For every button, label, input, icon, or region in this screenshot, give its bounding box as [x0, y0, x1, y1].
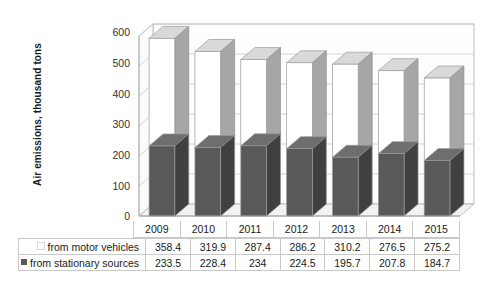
y-tick-100: 100	[96, 181, 130, 191]
table-row: from stationary sources233.5228.4234224.…	[19, 255, 460, 271]
category-axis-labels: 2009201020112012201320142015	[133, 221, 460, 238]
plot-area	[133, 20, 478, 220]
table-row: from motor vehicles358.4319.9287.4286.23…	[19, 239, 460, 255]
segment-stationary-2011	[241, 134, 281, 216]
category-label-2014: 2014	[366, 221, 413, 238]
table-cell: 310.2	[325, 239, 370, 255]
data-table: from motor vehicles358.4319.9287.4286.23…	[18, 238, 460, 271]
category-label-2011: 2011	[226, 221, 273, 238]
table-cell: 228.4	[190, 255, 235, 271]
series-name: from motor vehicles	[48, 241, 140, 253]
y-axis-title: Air emissions, thousand tons	[32, 20, 43, 210]
table-cell: 287.4	[235, 239, 280, 255]
data-table-body: from motor vehicles358.4319.9287.4286.23…	[19, 239, 460, 271]
table-cell: 276.5	[370, 239, 415, 255]
y-tick-200: 200	[96, 150, 130, 160]
table-cell: 319.9	[190, 239, 235, 255]
segment-stationary-2014	[378, 142, 418, 216]
series-legend-label: from motor vehicles	[19, 239, 146, 255]
column-2013	[333, 52, 373, 216]
table-cell: 234	[235, 255, 280, 271]
table-cell: 286.2	[280, 239, 325, 255]
column-2015	[424, 66, 464, 216]
category-label-2013: 2013	[319, 221, 366, 238]
segment-motor-vehicles-2013	[333, 52, 373, 157]
y-tick-400: 400	[96, 89, 130, 99]
category-label-2009: 2009	[133, 221, 180, 238]
segment-stationary-2012	[287, 137, 327, 216]
segment-motor-vehicles-2010	[195, 40, 235, 148]
series-name: from stationary sources	[30, 257, 139, 269]
category-label-2012: 2012	[273, 221, 320, 238]
segment-motor-vehicles-2015	[424, 66, 464, 161]
column-2009	[149, 26, 189, 216]
column-2012	[287, 51, 327, 216]
y-tick-500: 500	[96, 58, 130, 68]
category-label-2015: 2015	[412, 221, 460, 238]
legend-swatch-dark-icon	[21, 259, 27, 265]
table-cell: 275.2	[415, 239, 460, 255]
category-label-2010: 2010	[180, 221, 227, 238]
segment-motor-vehicles-2012	[287, 51, 327, 149]
segment-motor-vehicles-2011	[241, 48, 281, 146]
plot-svg	[133, 20, 478, 220]
table-cell: 358.4	[146, 239, 191, 255]
legend-swatch-light-icon	[37, 242, 45, 250]
column-2010	[195, 40, 235, 216]
y-tick-600: 600	[96, 27, 130, 37]
segment-stationary-2009	[149, 134, 189, 216]
column-2014	[378, 59, 418, 216]
table-cell: 184.7	[415, 255, 460, 271]
air-emissions-stacked-column-chart: Air emissions, thousand tons 600 500 400…	[0, 0, 489, 293]
segment-stationary-2015	[424, 149, 464, 216]
table-cell: 207.8	[370, 255, 415, 271]
segment-motor-vehicles-2009	[149, 26, 189, 146]
segment-motor-vehicles-2014	[378, 59, 418, 154]
column-2011	[241, 48, 281, 216]
y-tick-300: 300	[96, 119, 130, 129]
segment-stationary-2010	[195, 135, 235, 216]
table-cell: 224.5	[280, 255, 325, 271]
table-cell: 233.5	[146, 255, 191, 271]
series-legend-label: from stationary sources	[19, 255, 146, 271]
y-tick-0: 0	[96, 211, 130, 221]
table-cell: 195.7	[325, 255, 370, 271]
segment-stationary-2013	[333, 145, 373, 216]
